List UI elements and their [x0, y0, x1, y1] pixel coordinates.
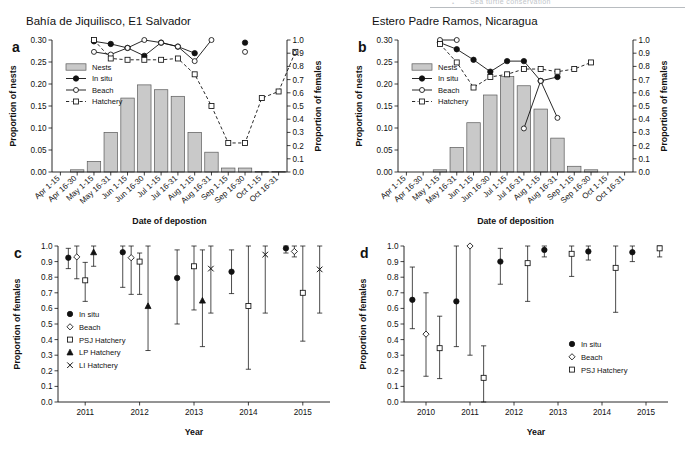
legend-marker-Beach [74, 88, 79, 93]
point-Beach [555, 115, 560, 120]
point-LP Hatchery [199, 297, 205, 303]
y-tick-right: 0.3 [639, 128, 651, 137]
legend-label: LI Hatchery [79, 361, 118, 370]
point-Beach [142, 38, 147, 43]
y-tick-right: 0.1 [639, 155, 651, 164]
point-Beach [538, 78, 543, 83]
legend-item-beach: Beach [66, 86, 114, 95]
point-PSJ Hatchery [657, 246, 662, 251]
y-tick: 1.0 [387, 242, 399, 251]
point-Hatchery [175, 56, 180, 61]
y-tick-left: 0.20 [377, 80, 393, 89]
point-PSJ Hatchery [613, 265, 618, 270]
y-tick-right: 0.5 [293, 102, 305, 111]
y-axis-label-left: Proportion of nests [8, 65, 18, 146]
point-In situ [108, 41, 113, 46]
y-axis-label-right: Proportion of females [659, 60, 669, 151]
legend-item-beach: Beach [569, 353, 603, 362]
legend-label: LP Hatchery [79, 348, 121, 357]
y-tick-left: 0.15 [31, 102, 47, 111]
point-In situ [542, 247, 547, 252]
error-bar [569, 246, 574, 276]
bar [467, 123, 480, 172]
legend-label: Hatchery [92, 97, 123, 106]
point-PSJ Hatchery [246, 304, 251, 309]
series-li-hatchery [208, 246, 322, 313]
legend-marker-PSJ Hatchery [68, 337, 73, 342]
bar [154, 90, 167, 172]
point-Beach [175, 44, 180, 49]
legend-item-li-hatchery: LI Hatchery [67, 361, 118, 370]
figure: Bahía de Jiquilisco, E1 Salvador Estero … [0, 0, 685, 450]
error-bar [498, 248, 503, 284]
point-LP Hatchery [91, 249, 97, 255]
x-tick: 2011 [461, 408, 479, 417]
legend-item-psj-hatchery: PSJ Hatchery [570, 366, 628, 375]
point-Beach [125, 45, 130, 50]
y-tick-right: 0.5 [639, 102, 651, 111]
y-tick-right: 0.9 [639, 49, 651, 58]
bar [534, 109, 547, 172]
legend-swatch-nests [66, 64, 86, 70]
x-tick: 2011 [76, 408, 94, 417]
x-tick: 2014 [593, 408, 612, 417]
point-In situ [192, 51, 197, 56]
y-axis-label-left: Proportion of nests [354, 65, 364, 146]
point-In situ [120, 250, 125, 255]
legend-label: In situ [438, 74, 458, 83]
point-Hatchery [589, 60, 594, 65]
point-Beach [128, 255, 134, 261]
y-tick: 0.1 [41, 382, 53, 391]
point-In situ [630, 250, 635, 255]
bar [121, 98, 134, 172]
panel-d-chart: d0.00.10.20.30.40.50.60.70.80.91.0201020… [346, 232, 685, 450]
point-Hatchery [192, 72, 197, 77]
legend-item-in-situ: In situ [67, 310, 99, 319]
point-Beach [243, 49, 248, 54]
legend-item-in-situ: In situ [66, 74, 112, 83]
point-In situ [454, 47, 459, 52]
legend-label: Nests [438, 63, 458, 72]
x-axis-label: Year [527, 427, 546, 437]
point-In situ [66, 255, 71, 260]
legend-item-psj-hatchery: PSJ Hatchery [68, 336, 126, 345]
legend-item-hatchery: Hatchery [412, 97, 469, 106]
y-tick-left: 0.25 [31, 58, 47, 67]
x-tick: 2015 [294, 408, 313, 417]
point-In situ [555, 74, 560, 79]
point-Hatchery [488, 74, 493, 79]
legend-item-beach: Beach [412, 86, 460, 95]
error-bar [613, 246, 618, 312]
error-bar [191, 246, 196, 310]
bar [87, 161, 100, 172]
error-bar [145, 246, 150, 351]
point-Beach [291, 248, 297, 254]
legend-marker-LP Hatchery [67, 349, 73, 355]
point-Beach [74, 254, 80, 260]
point-Hatchery [142, 57, 147, 62]
y-axis-label-right: Proportion of females [313, 60, 323, 151]
legend-swatch-nests [412, 64, 432, 70]
y-tick: 0.2 [41, 367, 53, 376]
point-In situ [471, 57, 476, 62]
point-PSJ Hatchery [300, 290, 305, 295]
bar [500, 77, 513, 172]
legend-marker-Beach [67, 324, 73, 330]
bar [238, 168, 251, 172]
point-Hatchery [572, 67, 577, 72]
x-tick: 2010 [417, 408, 436, 417]
y-tick: 0.9 [41, 258, 53, 267]
x-tick: 2013 [549, 408, 568, 417]
point-PSJ Hatchery [137, 259, 142, 264]
panel-letter: a [12, 39, 20, 55]
panel-a-title: Bahía de Jiquilisco, E1 Salvador [26, 15, 191, 27]
point-In situ [242, 40, 247, 45]
y-tick: 0.4 [41, 336, 53, 345]
y-tick-right: 0.7 [293, 76, 305, 85]
legend: NestsIn situBeachHatchery [66, 63, 123, 107]
x-tick: 2012 [505, 408, 524, 417]
point-In situ [488, 69, 493, 74]
y-tick-right: 1.0 [293, 36, 305, 45]
y-tick-left: 0.00 [31, 168, 47, 177]
point-In situ [586, 249, 591, 254]
